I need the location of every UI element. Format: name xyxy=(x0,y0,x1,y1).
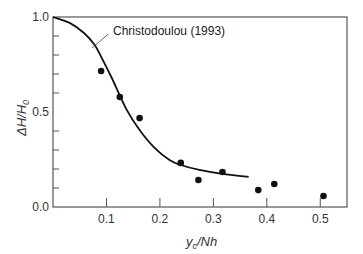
y-axis-title-sub: 0 xyxy=(21,100,31,105)
x-tick-label: 0.5 xyxy=(312,212,329,226)
y-tick-label: 0.5 xyxy=(32,105,49,119)
chart: 0.00.51.0 0.10.20.30.40.5 Christodoulou … xyxy=(0,0,363,254)
data-point xyxy=(195,177,202,184)
annotation-label: Christodoulou (1993) xyxy=(113,24,225,38)
data-point xyxy=(117,94,124,101)
annotation-leader-line xyxy=(92,34,108,48)
x-tick-label: 0.1 xyxy=(98,212,115,226)
data-point xyxy=(177,160,184,167)
data-point xyxy=(320,193,327,200)
x-tick-label: 0.2 xyxy=(152,212,169,226)
data-point xyxy=(271,181,278,188)
series-line-christodoulou xyxy=(53,17,249,177)
y-axis-title-main: ΔH/H xyxy=(14,104,29,137)
data-point xyxy=(98,68,105,75)
y-axis-ticks: 0.00.51.0 xyxy=(32,10,59,214)
x-axis-title-rest: /Nh xyxy=(196,234,217,249)
x-tick-label: 0.3 xyxy=(205,212,222,226)
x-axis-ticks: 0.10.20.30.40.5 xyxy=(98,198,329,226)
data-point xyxy=(219,169,226,176)
y-tick-label: 0.0 xyxy=(32,200,49,214)
y-tick-label: 1.0 xyxy=(32,10,49,24)
series-scatter-data xyxy=(98,68,327,200)
x-tick-label: 0.4 xyxy=(258,212,275,226)
y-axis-title: ΔH/H0 xyxy=(14,100,31,137)
data-point xyxy=(255,187,262,194)
data-point xyxy=(136,115,143,122)
x-axis-title: yc/Nh xyxy=(185,234,217,251)
